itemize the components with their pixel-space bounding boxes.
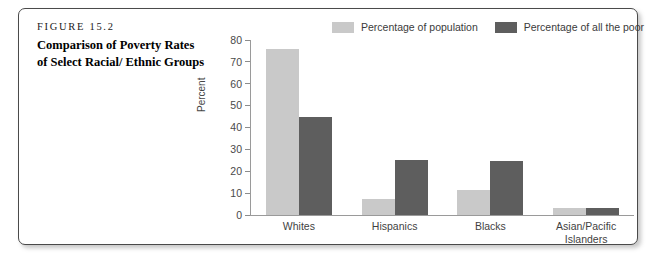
legend-swatch-population <box>332 22 354 33</box>
chart: Percentage of population Percentage of a… <box>194 13 634 243</box>
bar-pair <box>457 161 523 215</box>
x-axis-line <box>250 215 634 216</box>
legend-label-poor: Percentage of all the poor <box>524 21 644 33</box>
y-axis-ticks: 01020304050607080 <box>212 40 250 215</box>
figure-frame: FIGURE 15.2 Comparison of Poverty Rates … <box>18 8 638 245</box>
y-axis-tick-label: 60 <box>230 79 242 90</box>
bar-poor <box>395 160 428 215</box>
bar-pair <box>553 208 619 215</box>
y-axis-tick-label: 30 <box>230 144 242 155</box>
bar-population <box>457 190 490 215</box>
bar-poor <box>586 208 619 215</box>
legend-item-population: Percentage of population <box>332 21 478 33</box>
plot-area: Percent 01020304050607080 WhitesHispanic… <box>194 40 634 240</box>
y-axis-tick-label: 70 <box>230 57 242 68</box>
figure-number: FIGURE 15.2 <box>37 21 207 32</box>
y-axis-tick-label: 0 <box>236 210 242 221</box>
bar-group <box>251 40 347 215</box>
x-axis-label: Whites <box>251 220 347 245</box>
bar-population <box>553 208 586 215</box>
legend-label-population: Percentage of population <box>361 21 478 33</box>
bar-group <box>443 40 539 215</box>
legend-item-poor: Percentage of all the poor <box>495 21 644 33</box>
bar-population <box>362 199 395 215</box>
bars-layer <box>251 40 634 215</box>
bar-population <box>266 49 299 215</box>
bar-poor <box>490 161 523 215</box>
x-axis-label: Blacks <box>443 220 539 245</box>
x-axis-labels: WhitesHispanicsBlacksAsian/PacificIsland… <box>251 220 634 245</box>
figure-caption: FIGURE 15.2 Comparison of Poverty Rates … <box>37 21 207 70</box>
y-axis-title: Percent <box>196 78 207 112</box>
figure-title: Comparison of Poverty Rates of Select Ra… <box>37 37 207 70</box>
y-axis-tick-label: 20 <box>230 166 242 177</box>
bar-pair <box>266 49 332 215</box>
x-axis-label: Asian/PacificIslanders <box>538 220 634 245</box>
y-axis-tick-label: 50 <box>230 100 242 111</box>
y-axis-tick-label: 40 <box>230 122 242 133</box>
bar-pair <box>362 160 428 215</box>
bar-group <box>347 40 443 215</box>
x-axis-label: Hispanics <box>347 220 443 245</box>
bar-group <box>538 40 634 215</box>
bar-poor <box>299 117 332 215</box>
y-axis-tick-label: 10 <box>230 188 242 199</box>
legend-swatch-poor <box>495 22 517 33</box>
y-axis-tick-label: 80 <box>230 35 242 46</box>
chart-legend: Percentage of population Percentage of a… <box>332 21 644 33</box>
